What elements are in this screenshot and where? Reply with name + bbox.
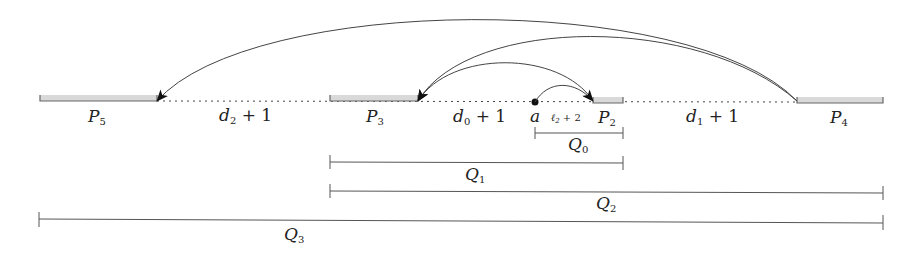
label-P3: P3 (365, 106, 384, 127)
gap-label-d0: d0 + 1 (453, 106, 506, 127)
label-Q0: Q0 (568, 134, 588, 155)
arrow-P4-to-P3 (418, 37, 797, 102)
gap-label-d1: d1 + 1 (686, 106, 739, 127)
label-Q1: Q1 (465, 164, 485, 185)
arrow-P2-to-P3 (418, 63, 593, 101)
label-P4: P4 (829, 107, 848, 128)
block-P4 (797, 97, 883, 103)
label-P2: P2 (597, 107, 616, 128)
block-P3 (330, 95, 418, 101)
block-P2 (593, 97, 623, 103)
interval-Q3 (39, 212, 883, 230)
arrow-a-to-P2 (535, 85, 593, 102)
label-Q3: Q3 (284, 224, 304, 245)
gap-label-d2: d2 + 1 (219, 105, 272, 126)
label-Q2: Q2 (596, 193, 616, 214)
dotted-baseline (157, 101, 797, 102)
block-P5 (40, 95, 157, 101)
label-a: a (530, 106, 540, 126)
interval-diagram: P5 P3 P2 P4 d2 + 1 d0 + 1 d1 + 1 a ℓ2 + … (0, 0, 920, 256)
arrow-P4-to-P5 (157, 20, 797, 101)
small-gap-label-l2: ℓ2 + 2 (551, 112, 581, 125)
label-P5: P5 (87, 106, 106, 127)
